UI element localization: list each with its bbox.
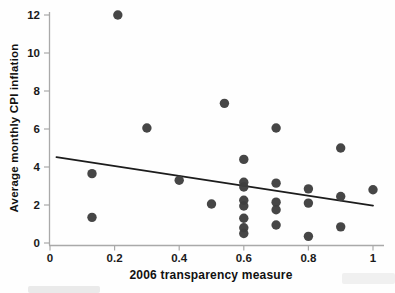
data-point <box>271 178 280 187</box>
data-point <box>271 220 280 229</box>
data-point <box>336 222 345 231</box>
data-point <box>336 192 345 201</box>
data-point <box>113 10 122 19</box>
y-tick-label: 4 <box>34 161 41 173</box>
data-point <box>304 198 313 207</box>
x-tick-label: 0 <box>47 252 53 264</box>
y-tick-label: 2 <box>34 199 40 211</box>
scatter-plot-figure: 02468101200.20.40.60.81 Average monthly … <box>0 0 395 293</box>
x-axis-title: 2006 transparency measure <box>129 268 292 282</box>
y-tick-label: 12 <box>27 9 40 21</box>
y-axis-title: Average monthly CPI inflation <box>8 44 20 213</box>
x-tick-label: 0.6 <box>236 252 252 264</box>
x-tick-label: 0.4 <box>171 252 188 264</box>
data-point <box>87 213 96 222</box>
data-point <box>220 99 229 108</box>
data-point <box>271 123 280 132</box>
data-point <box>175 176 184 185</box>
data-point <box>239 201 248 210</box>
data-point <box>207 199 216 208</box>
data-point <box>239 182 248 191</box>
data-point <box>368 185 377 194</box>
data-point <box>142 123 151 132</box>
data-point <box>239 214 248 223</box>
y-tick-label: 6 <box>34 123 40 135</box>
x-tick-label: 0.8 <box>300 252 317 264</box>
x-tick-label: 1 <box>370 252 377 264</box>
scan-artifact-bottom-left <box>28 286 100 293</box>
y-tick-label: 0 <box>34 237 40 249</box>
trend-line <box>56 157 373 205</box>
scan-artifact-bottom-right <box>342 273 395 284</box>
y-tick-label: 10 <box>27 47 40 59</box>
data-point <box>304 184 313 193</box>
data-point <box>87 169 96 178</box>
data-point <box>239 229 248 238</box>
data-point <box>239 155 248 164</box>
data-point <box>271 205 280 214</box>
y-tick-label: 8 <box>34 85 41 97</box>
chart-canvas: 02468101200.20.40.60.81 <box>0 0 395 293</box>
data-point <box>336 143 345 152</box>
data-point <box>304 232 313 241</box>
x-tick-label: 0.2 <box>107 252 123 264</box>
